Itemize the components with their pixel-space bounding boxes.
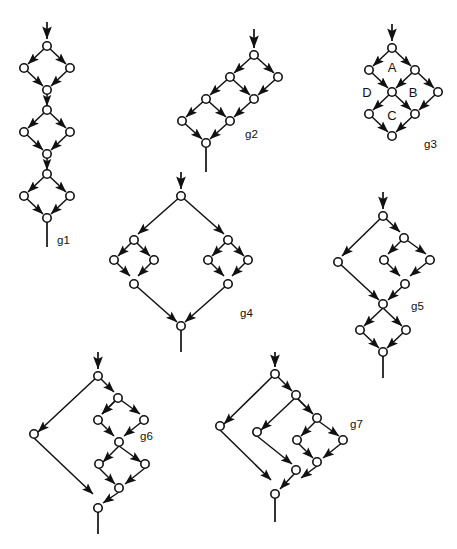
graph-g4: g4 (110, 172, 254, 352)
graph-node (388, 88, 396, 96)
graph-node (202, 139, 210, 147)
graph-node (356, 326, 364, 334)
graph-node (379, 348, 387, 356)
graph-node (313, 458, 321, 466)
graph-node (388, 132, 396, 140)
graph-g3: A B C D g3 (362, 24, 442, 150)
graph-node (115, 484, 123, 492)
graph-node (224, 236, 232, 244)
g4-nodes (110, 192, 252, 330)
graph-node (365, 110, 373, 118)
graph-g7: g7 (216, 352, 363, 522)
graph-node (43, 170, 51, 178)
g4-edges (114, 196, 248, 322)
graph-node (244, 256, 252, 264)
graph-node (313, 414, 321, 422)
graph-label-g5: g5 (411, 300, 424, 312)
graph-label-g2: g2 (245, 128, 258, 140)
graph-label-g3: g3 (424, 138, 437, 150)
g3-edges (369, 48, 438, 132)
graph-node (115, 438, 123, 446)
graph-node (204, 256, 212, 264)
graph-node (216, 422, 224, 430)
graph-node (43, 106, 51, 114)
graph-node (94, 372, 102, 380)
g5-nodes (334, 212, 434, 356)
graph-node (94, 504, 102, 512)
face-label-d: D (362, 85, 371, 100)
face-label-c: C (387, 108, 396, 123)
graph-node (130, 236, 138, 244)
graph-node (292, 466, 300, 474)
graph-node (94, 416, 102, 424)
graph-label-g4: g4 (240, 307, 253, 319)
graph-node (379, 300, 387, 308)
graph-node (411, 66, 419, 74)
graph-node (334, 258, 342, 266)
graph-node (250, 95, 258, 103)
graph-node (178, 117, 186, 125)
graph-node (95, 460, 103, 468)
graph-node (30, 430, 38, 438)
graph-node (202, 95, 210, 103)
graph-node (140, 416, 148, 424)
g1-edges (24, 46, 70, 214)
graph-node (339, 436, 347, 444)
graph-g5: g5 (334, 192, 434, 378)
graph-node (271, 370, 279, 378)
face-label-b: B (409, 85, 418, 100)
graph-node (66, 64, 74, 72)
graph-node (365, 66, 373, 74)
g7-nodes (216, 370, 347, 498)
graph-node (226, 117, 234, 125)
graph-node (271, 490, 279, 498)
graph-node (150, 256, 158, 264)
graph-label-g6: g6 (140, 430, 153, 442)
graph-node (20, 128, 28, 136)
graph-node (43, 86, 51, 94)
graph-node (66, 192, 74, 200)
g2-nodes (178, 51, 282, 147)
graph-node (292, 391, 300, 399)
graph-node (20, 64, 28, 72)
graph-node (401, 280, 409, 288)
graph-node (411, 110, 419, 118)
graph-node (250, 51, 258, 59)
graph-node (380, 256, 388, 264)
graph-node (388, 44, 396, 52)
graph-node (130, 280, 138, 288)
graph-node (110, 256, 118, 264)
graph-node (224, 280, 232, 288)
graph-node (177, 192, 185, 200)
g7-edges (220, 374, 343, 489)
graph-label-g7: g7 (350, 418, 363, 430)
graph-node (434, 88, 442, 96)
graph-node (43, 42, 51, 50)
graph-node (379, 212, 387, 220)
graph-node (400, 234, 408, 242)
graph-g6: g6 (30, 352, 153, 534)
graph-node (43, 214, 51, 222)
figure-root: g1 (0, 0, 457, 549)
graph-node (253, 428, 261, 436)
graph-node (226, 73, 234, 81)
graph-node (274, 73, 282, 81)
graph-label-g1: g1 (57, 234, 70, 246)
graph-node (20, 192, 28, 200)
graph-node (402, 326, 410, 334)
g2-edges (182, 55, 278, 139)
g1-nodes (20, 42, 74, 222)
graph-node (177, 322, 185, 330)
face-label-a: A (388, 60, 397, 75)
graph-g2: g2 (178, 29, 282, 172)
g6-edges (34, 376, 145, 503)
graph-node (141, 460, 149, 468)
digraph-figure-canvas: g1 (0, 0, 457, 549)
graph-node (293, 436, 301, 444)
graph-node (426, 256, 434, 264)
graph-g1: g1 (20, 22, 74, 247)
g5-edges (338, 216, 430, 348)
graph-node (114, 394, 122, 402)
graph-node (66, 128, 74, 136)
graph-node (43, 150, 51, 158)
